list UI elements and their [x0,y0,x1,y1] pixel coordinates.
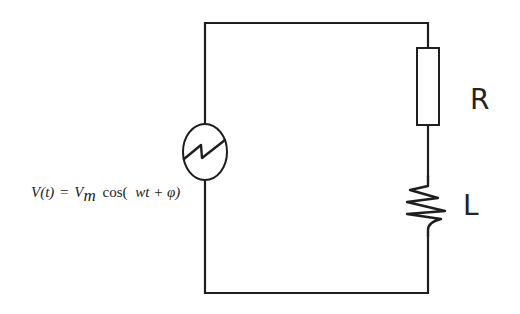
circuit-diagram: R L V(t) = Vm cos( wt + φ) [0,0,520,314]
inductor [407,176,445,236]
equation-subscript: m [83,186,95,205]
resistor-label: R [470,83,489,116]
source-equation: V(t) = Vm cos( wt + φ) [31,184,180,205]
wire-bottom [205,182,428,293]
ac-source-ellipse [183,124,227,180]
ac-voltage-source [183,124,227,180]
equation-function: cos( [103,184,128,201]
resistor [417,48,439,125]
equation-argument: wt + φ) [135,184,180,201]
equation-lhs: V(t) [31,184,54,201]
equation-equals: = [60,184,68,200]
wire-top [205,23,428,124]
inductor-label: L [463,189,479,222]
